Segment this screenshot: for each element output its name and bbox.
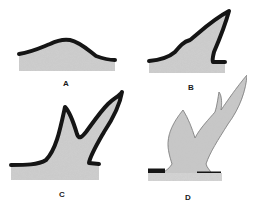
panel-b: [149, 11, 229, 73]
panel-c: [11, 92, 122, 180]
panel-d-base-ground: [148, 173, 222, 181]
panel-a: [19, 40, 115, 71]
panel-a-label: A: [63, 80, 69, 88]
panel-a-fill: [19, 40, 115, 71]
antler-growth-diagram: A B C D: [0, 0, 259, 208]
panel-d-label: D: [185, 194, 191, 202]
panel-c-label: C: [59, 191, 65, 199]
panel-d-fill: [162, 75, 247, 178]
panel-b-label: B: [188, 84, 194, 92]
panel-d: [148, 75, 247, 181]
diagram-canvas: [0, 0, 259, 208]
